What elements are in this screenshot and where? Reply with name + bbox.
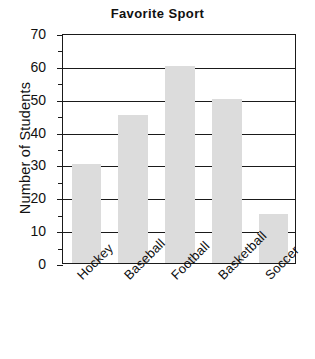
y-tick-label-10: 10 [0,224,46,238]
y-axis-title: Number of Students [17,58,33,238]
bar-basketball [212,99,241,263]
bar-baseball [118,115,147,263]
y-tick-label-20: 20 [0,191,46,205]
y-tick-major-10 [57,232,63,233]
y-tick-major-40 [57,134,63,135]
y-tick-label-0: 0 [0,257,46,271]
bar-football [165,66,194,263]
y-tick-label-70: 70 [0,27,46,41]
y-tick-major-50 [57,101,63,102]
y-tick-label-50: 50 [0,93,46,107]
y-tick-label-40: 40 [0,126,46,140]
chart-title: Favorite Sport [0,6,315,21]
y-tick-minor-25 [58,183,63,184]
y-tick-label-60: 60 [0,60,46,74]
y-tick-minor-35 [58,150,63,151]
y-tick-minor-55 [58,84,63,85]
y-tick-major-20 [57,199,63,200]
y-tick-label-30: 30 [0,158,46,172]
y-tick-minor-45 [58,117,63,118]
y-tick-minor-15 [58,216,63,217]
y-tick-major-30 [57,166,63,167]
y-tick-minor-5 [58,249,63,250]
y-tick-major-60 [57,68,63,69]
y-tick-major-0 [57,265,63,266]
bar-chart: Favorite Sport Number of Students 010203… [0,0,315,359]
y-tick-major-70 [57,35,63,36]
y-tick-minor-65 [58,51,63,52]
